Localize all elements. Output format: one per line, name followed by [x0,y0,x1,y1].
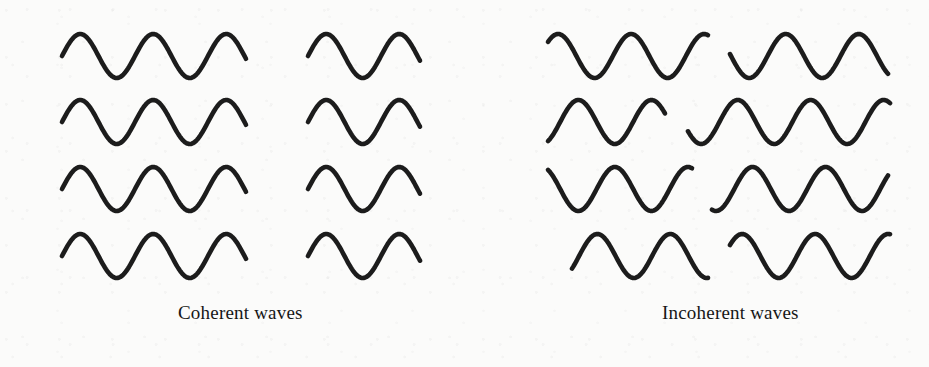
caption-incoherent-waves: Incoherent waves [662,302,799,324]
incoherent-waves-group [548,34,890,278]
wave-incoherent-row3-seg2 [712,167,888,211]
caption-coherent-waves: Coherent waves [178,302,303,324]
wave-coherent-row2-seg1 [62,100,246,144]
coherent-waves-group [62,34,420,278]
wave-incoherent-row3-seg1 [548,167,692,211]
figure-coherent-vs-incoherent-waves: Coherent waves Incoherent waves [0,0,929,367]
wave-coherent-row3-seg2 [308,167,420,211]
wave-coherent-row4-seg2 [308,234,420,278]
wave-incoherent-row4-seg1 [572,234,708,278]
wave-incoherent-row2-seg1 [548,100,665,144]
wave-incoherent-row1-seg2 [730,34,888,78]
wave-coherent-row2-seg2 [308,100,420,144]
wave-coherent-row1-seg1 [62,34,246,78]
wave-coherent-row1-seg2 [308,34,420,78]
wave-incoherent-row2-seg2 [688,100,890,144]
wave-coherent-row4-seg1 [62,234,246,278]
wave-coherent-row3-seg1 [62,167,246,211]
wave-incoherent-row4-seg2 [730,234,890,278]
wave-incoherent-row1-seg1 [548,34,708,78]
